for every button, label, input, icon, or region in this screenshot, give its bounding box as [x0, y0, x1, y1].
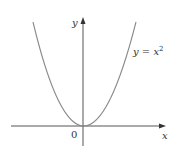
y-axis-arrow-icon: [81, 17, 86, 24]
x-axis-arrow-icon: [159, 124, 166, 129]
parabola-graph: y x 0 y = x2: [0, 0, 178, 158]
curve-equation-label: y = x2: [132, 45, 164, 57]
origin-label: 0: [71, 129, 77, 140]
parabola-curve: [33, 22, 136, 126]
y-axis-label: y: [71, 17, 78, 28]
x-axis-label: x: [162, 130, 168, 141]
